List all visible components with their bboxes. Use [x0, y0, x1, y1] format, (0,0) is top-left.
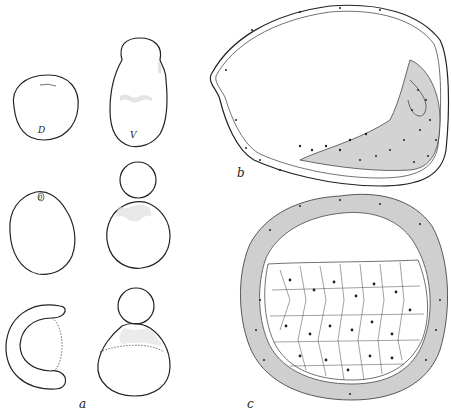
panel-a-embryo-budding-2	[98, 288, 170, 396]
figure-plate: D V 0 a b	[0, 0, 451, 413]
panel-label-a: a	[79, 397, 86, 411]
panel-label-b: b	[237, 166, 245, 180]
panel-label-c: c	[247, 397, 254, 411]
label-D: D	[37, 125, 45, 135]
panel-a-embryo-curved	[6, 305, 66, 389]
panel-a-embryo-dorsal-2	[10, 192, 75, 275]
panel-a-embryo-budding	[107, 162, 170, 268]
label-0: 0	[38, 194, 43, 202]
panel-b-section	[210, 5, 448, 186]
panel-c-section	[240, 194, 447, 400]
panel-a-embryo-dorsal	[13, 75, 78, 140]
label-V: V	[130, 130, 138, 140]
panel-a-embryo-ventral	[110, 38, 167, 147]
